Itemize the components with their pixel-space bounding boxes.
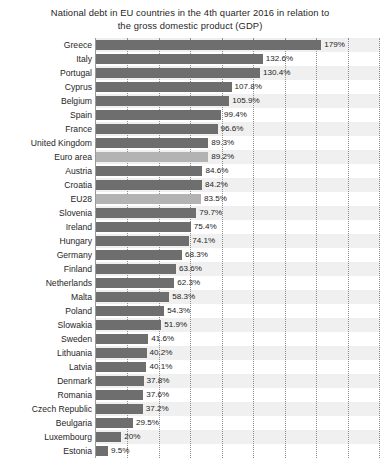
bar-row: Beulgaria29.5%	[0, 416, 380, 430]
value-label: 107.8%	[235, 80, 262, 94]
bar-row: Romania37.6%	[0, 388, 380, 402]
category-label: Sweden	[0, 332, 92, 346]
category-label: Austria	[0, 164, 92, 178]
bar-row: Croatia84.2%	[0, 178, 380, 192]
bar	[96, 334, 148, 344]
category-label: Hungary	[0, 234, 92, 248]
bar	[96, 278, 174, 288]
bar	[96, 110, 221, 120]
value-label: 63.6%	[179, 262, 202, 276]
bar-row: Poland54.3%	[0, 304, 380, 318]
value-label: 20%	[124, 430, 140, 444]
bar	[96, 222, 191, 232]
bar	[96, 96, 229, 106]
bar-row: Austria84.6%	[0, 164, 380, 178]
category-label: Slowakia	[0, 318, 92, 332]
bar-row: Euro area89.2%	[0, 150, 380, 164]
bar	[96, 432, 121, 442]
value-label: 89.3%	[211, 136, 234, 150]
bar-row: Sweden41.6%	[0, 332, 380, 346]
value-label: 54.3%	[167, 304, 190, 318]
category-label: France	[0, 122, 92, 136]
value-label: 40.1%	[149, 360, 172, 374]
category-label: Netherlands	[0, 276, 92, 290]
bar	[96, 446, 108, 456]
value-label: 130.4%	[263, 66, 290, 80]
bar	[96, 166, 202, 176]
category-label: Belgium	[0, 94, 92, 108]
value-label: 84.2%	[205, 178, 228, 192]
value-label: 75.4%	[194, 220, 217, 234]
bar-row: France96.6%	[0, 122, 380, 136]
category-label: Greece	[0, 38, 92, 52]
bar	[96, 376, 144, 386]
category-label: Italy	[0, 52, 92, 66]
bar	[96, 236, 189, 246]
bar-row: Spain99.4%	[0, 108, 380, 122]
value-label: 179%	[324, 38, 345, 52]
bar	[96, 250, 182, 260]
value-label: 41.6%	[151, 332, 174, 346]
category-label: Slovenia	[0, 206, 92, 220]
bar	[96, 306, 164, 316]
value-label: 51.9%	[164, 318, 187, 332]
value-label: 29.5%	[136, 416, 159, 430]
bar	[96, 82, 232, 92]
bar-row: Slowakia51.9%	[0, 318, 380, 332]
value-label: 79.7%	[199, 206, 222, 220]
value-label: 83.5%	[204, 192, 227, 206]
value-label: 37.6%	[146, 388, 169, 402]
category-label: Finland	[0, 262, 92, 276]
category-label: Malta	[0, 290, 92, 304]
value-label: 132.6%	[266, 52, 293, 66]
bar-row: Greece179%	[0, 38, 380, 52]
bar-row-layer: Greece179%Italy132.6%Portugal130.4%Cypru…	[0, 38, 380, 458]
bar-row: Cyprus107.8%	[0, 80, 380, 94]
category-label: EU28	[0, 192, 92, 206]
bar	[96, 40, 321, 50]
bar-row: Denmark37.8%	[0, 374, 380, 388]
chart-title: National debt in EU countries in the 4th…	[26, 6, 354, 32]
bar-row: Latvia40.1%	[0, 360, 380, 374]
chart-title-line-1: National debt in EU countries in the 4th…	[51, 7, 329, 18]
category-label: Estonia	[0, 444, 92, 458]
category-label: Croatia	[0, 178, 92, 192]
value-label: 74.1%	[192, 234, 215, 248]
bar-row: Luxembourg20%	[0, 430, 380, 444]
category-label: Denmark	[0, 374, 92, 388]
bar	[96, 348, 147, 358]
category-label: Ireland	[0, 220, 92, 234]
bar	[96, 180, 202, 190]
bar	[96, 264, 176, 274]
category-label: Czech Republic	[0, 402, 92, 416]
bar	[96, 404, 143, 414]
bar-row: Netherlands62.3%	[0, 276, 380, 290]
bar	[96, 152, 208, 162]
bar	[96, 194, 201, 204]
category-label: Poland	[0, 304, 92, 318]
category-label: Euro area	[0, 150, 92, 164]
category-label: Cyprus	[0, 80, 92, 94]
value-label: 68.3%	[185, 248, 208, 262]
bar-row: United Kingdom89.3%	[0, 136, 380, 150]
bar	[96, 138, 208, 148]
national-debt-bar-chart: National debt in EU countries in the 4th…	[0, 0, 380, 460]
bar-row: Ireland75.4%	[0, 220, 380, 234]
bar-row: EU2883.5%	[0, 192, 380, 206]
bar-row: Portugal130.4%	[0, 66, 380, 80]
chart-title-line-2: the gross domestic product (GDP)	[118, 20, 263, 31]
bar-row: Belgium105.9%	[0, 94, 380, 108]
bar-row: Italy132.6%	[0, 52, 380, 66]
bar	[96, 208, 196, 218]
bar-row: Czech Republic37.2%	[0, 402, 380, 416]
category-label: Luxembourg	[0, 430, 92, 444]
value-label: 84.6%	[205, 164, 228, 178]
bar-row: Malta58.3%	[0, 290, 380, 304]
plot-area: Greece179%Italy132.6%Portugal130.4%Cypru…	[0, 38, 380, 458]
bar	[96, 362, 146, 372]
bar-row: Lithuania40.2%	[0, 346, 380, 360]
bar	[96, 320, 161, 330]
category-label: Portugal	[0, 66, 92, 80]
value-label: 99.4%	[224, 108, 247, 122]
value-label: 37.2%	[146, 402, 169, 416]
